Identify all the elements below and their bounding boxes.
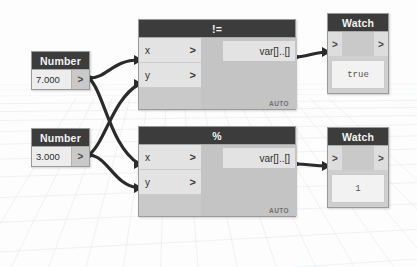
node-number-1-title: Number xyxy=(32,52,89,69)
node-modulo-body: x > y > var[]..[] AUTO xyxy=(139,144,295,216)
number-2-output-port[interactable]: > xyxy=(71,147,89,166)
node-not-equal-title: != xyxy=(139,20,295,37)
not-equal-input-y[interactable]: y > xyxy=(139,63,201,88)
node-not-equal[interactable]: != x > y > var[]..[] AUTO xyxy=(138,19,296,110)
watch-2-output-port[interactable]: > xyxy=(374,146,388,170)
not-equal-run-mode-label: AUTO xyxy=(269,100,289,107)
modulo-input-y[interactable]: y > xyxy=(139,170,201,195)
number-2-value-field[interactable]: 3.000 xyxy=(32,147,71,166)
node-number-2-title: Number xyxy=(32,129,89,146)
modulo-input-x-label: x xyxy=(139,152,190,163)
node-modulo-port-rows: x > y > var[]..[] xyxy=(139,145,295,195)
node-watch-2-ports: > > xyxy=(328,145,388,170)
node-watch-1-ports: > > xyxy=(328,31,388,56)
node-watch-2-mid-panel xyxy=(342,146,374,170)
node-not-equal-body: x > y > var[]..[] AUTO xyxy=(139,37,295,109)
node-watch-1[interactable]: Watch > > true xyxy=(327,13,389,94)
node-watch-1-mid-panel xyxy=(342,32,374,56)
node-watch-2[interactable]: Watch > > 1 xyxy=(327,127,389,208)
not-equal-input-x-caret: > xyxy=(190,44,201,56)
wire-num1-to-notequal-x xyxy=(89,60,139,78)
not-equal-output-port[interactable]: var[]..[] xyxy=(223,41,295,61)
not-equal-input-y-caret: > xyxy=(190,69,201,81)
watch-1-display-value: true xyxy=(331,60,385,89)
node-watch-2-title: Watch xyxy=(328,128,388,145)
node-not-equal-footer: AUTO xyxy=(139,88,295,109)
node-number-1[interactable]: Number 7.000 > xyxy=(31,51,90,90)
node-watch-1-title: Watch xyxy=(328,14,388,31)
not-equal-input-x-label: x xyxy=(139,45,190,56)
wire-num2-to-notequal-y xyxy=(89,84,139,155)
number-1-output-port[interactable]: > xyxy=(71,70,89,89)
watch-2-input-port[interactable]: > xyxy=(328,146,342,170)
watch-2-display-value: 1 xyxy=(331,174,385,203)
dynamo-canvas[interactable]: Number 7.000 > Number 3.000 > != x > y > xyxy=(0,0,417,267)
node-number-2[interactable]: Number 3.000 > xyxy=(31,128,90,167)
number-1-value-field[interactable]: 7.000 xyxy=(32,70,71,89)
not-equal-input-y-label: y xyxy=(139,70,190,81)
node-modulo-footer: AUTO xyxy=(139,195,295,216)
modulo-input-x[interactable]: x > xyxy=(139,145,201,170)
not-equal-input-x[interactable]: x > xyxy=(139,38,201,63)
node-number-2-body: 3.000 > xyxy=(32,146,89,166)
modulo-run-mode-label: AUTO xyxy=(269,207,289,214)
node-not-equal-port-rows: x > y > var[]..[] xyxy=(139,38,295,88)
modulo-input-y-caret: > xyxy=(190,176,201,188)
modulo-input-x-caret: > xyxy=(190,151,201,163)
node-modulo[interactable]: % x > y > var[]..[] AUTO xyxy=(138,126,296,217)
node-number-1-body: 7.000 > xyxy=(32,69,89,89)
node-modulo-title: % xyxy=(139,127,295,144)
modulo-input-y-label: y xyxy=(139,177,190,188)
modulo-output-port[interactable]: var[]..[] xyxy=(223,148,295,168)
watch-1-output-port[interactable]: > xyxy=(374,32,388,56)
watch-1-input-port[interactable]: > xyxy=(328,32,342,56)
